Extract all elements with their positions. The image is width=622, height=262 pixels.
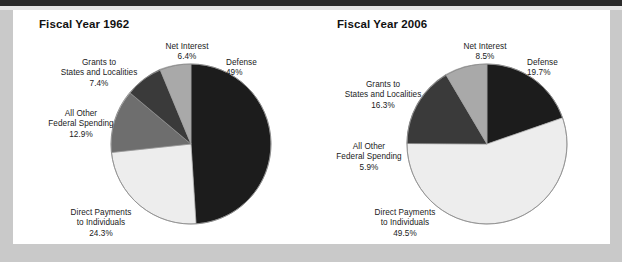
chart-panel-fy1962: Fiscal Year 1962 De — [13, 10, 311, 244]
figure-card: Fiscal Year 1962 De — [13, 10, 610, 244]
slice-label-all-other-line1: All Other — [65, 109, 97, 118]
chart-title-fy1962: Fiscal Year 1962 — [39, 18, 129, 30]
slice-label-defense-pct: 49% — [226, 68, 257, 78]
slice-label-all-other: All Other Federal Spending 5.9% — [319, 142, 419, 173]
slice-label-all-other-line2: Federal Spending — [48, 119, 113, 128]
slice-label-net-interest-pct: 6.4% — [139, 52, 235, 62]
slice-label-all-other-line2: Federal Spending — [336, 152, 401, 161]
slice-label-grants-pct: 7.4% — [47, 79, 151, 89]
chart-title-fy2006: Fiscal Year 2006 — [337, 18, 427, 30]
slice-label-net-interest-name: Net Interest — [464, 42, 507, 51]
page-background: Fiscal Year 1962 De — [0, 0, 622, 262]
slice-label-direct-payments-pct: 24.3% — [49, 229, 153, 239]
slice-label-grants: Grants to States and Localities 16.3% — [331, 80, 435, 111]
chart-panel-fy2006: Fiscal Year 2006 Defense — [311, 10, 609, 244]
slice-label-direct-payments: Direct Payments to Individuals 24.3% — [49, 208, 153, 239]
slice-label-direct-payments: Direct Payments to Individuals 49.5% — [353, 208, 457, 239]
slice-label-all-other-line1: All Other — [353, 142, 385, 151]
slice-label-direct-payments-line2: to Individuals — [77, 218, 126, 227]
pie-slice-defense — [191, 64, 271, 224]
slice-label-all-other-pct: 12.9% — [33, 130, 129, 140]
slice-label-direct-payments-line1: Direct Payments — [375, 208, 436, 217]
slice-label-direct-payments-pct: 49.5% — [353, 229, 457, 239]
slice-label-grants: Grants to States and Localities 7.4% — [47, 58, 151, 89]
slice-label-direct-payments-line2: to Individuals — [381, 218, 430, 227]
slice-label-grants-line2: States and Localities — [61, 68, 138, 77]
slice-label-all-other: All Other Federal Spending 12.9% — [33, 109, 129, 140]
slice-label-defense-pct: 19.7% — [527, 68, 558, 78]
slice-label-net-interest: Net Interest 6.4% — [139, 42, 235, 63]
slice-label-net-interest-pct: 8.5% — [437, 52, 533, 62]
slice-label-net-interest-name: Net Interest — [166, 42, 209, 51]
slice-label-grants-line1: Grants to — [82, 58, 116, 67]
slice-label-all-other-pct: 5.9% — [319, 163, 419, 173]
slice-label-grants-line2: States and Localities — [345, 90, 422, 99]
slice-label-direct-payments-line1: Direct Payments — [71, 208, 132, 217]
slice-label-grants-pct: 16.3% — [331, 101, 435, 111]
slice-label-grants-line1: Grants to — [366, 80, 400, 89]
slice-label-net-interest: Net Interest 8.5% — [437, 42, 533, 63]
